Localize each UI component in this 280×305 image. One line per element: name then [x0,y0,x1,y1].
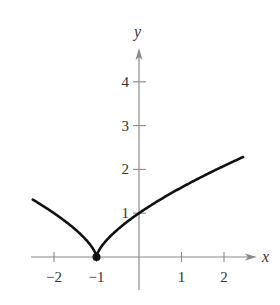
tick-marks: −2−1121234 [46,74,228,285]
y-tick-label: 4 [122,74,130,90]
cusp-point [93,253,101,261]
x-tick-label: −1 [89,269,105,285]
function-curve [33,157,243,256]
curve [33,157,243,261]
x-tick-label: 2 [220,269,228,285]
x-tick-label: 1 [178,269,186,285]
function-graph: −2−1121234 x y [0,0,280,305]
y-tick-label: 1 [122,205,130,221]
y-axis-label: y [132,23,142,41]
y-tick-label: 2 [122,161,130,177]
x-tick-label: −2 [46,269,62,285]
y-tick-label: 3 [122,118,130,134]
x-axis-label: x [261,248,269,265]
